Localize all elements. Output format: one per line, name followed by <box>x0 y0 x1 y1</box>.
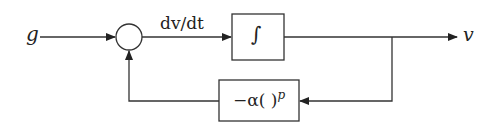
output-label: v <box>463 23 474 45</box>
feedback-branch <box>300 37 392 101</box>
feedback-return-arrow <box>129 51 219 101</box>
integrator-symbol: ∫ <box>251 22 261 46</box>
block-diagram: g dv/dt ∫ −α( )p v <box>0 0 500 127</box>
feedback-exponent: p <box>277 88 285 102</box>
summing-junction <box>116 24 142 50</box>
derivative-label-text: dv/dt <box>160 13 204 33</box>
feedback-label: −α( )p <box>233 88 285 110</box>
feedback-label-base: −α( ) <box>233 90 277 110</box>
derivative-label: dv/dt <box>160 13 204 33</box>
input-label: g <box>26 22 39 46</box>
